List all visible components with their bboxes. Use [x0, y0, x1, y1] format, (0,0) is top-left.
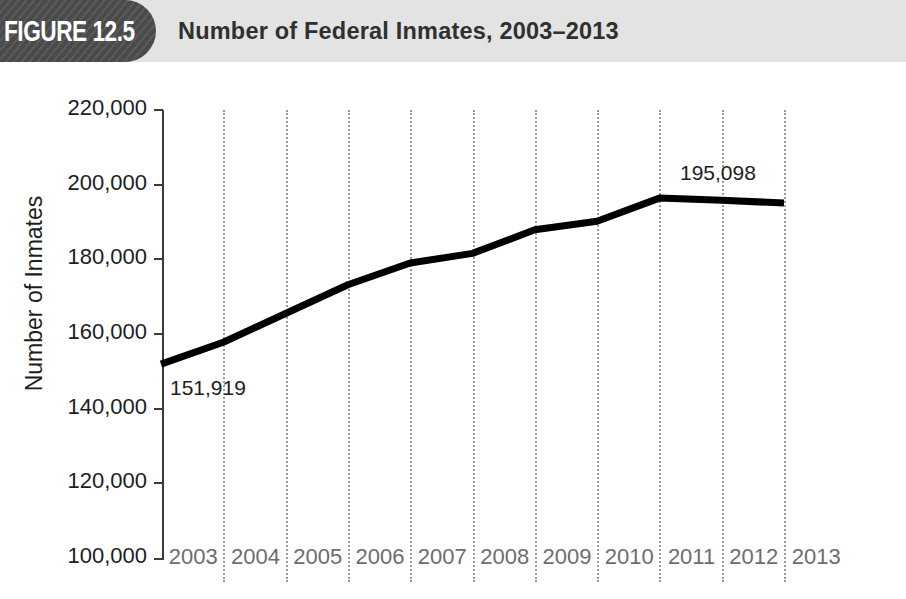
- figure-number-label: FIGURE 12.5: [4, 15, 135, 48]
- figure-header: FIGURE 12.5 Number of Federal Inmates, 2…: [0, 0, 906, 62]
- line-series: [0, 62, 906, 599]
- data-value-label: 151,919: [170, 376, 246, 400]
- data-value-label: 195,098: [680, 161, 756, 185]
- figure-title: Number of Federal Inmates, 2003–2013: [178, 0, 619, 62]
- chart-area: Number of Inmates 100,000120,000140,0001…: [0, 62, 906, 599]
- figure-number-tab: FIGURE 12.5: [0, 0, 156, 62]
- inmates-line: [161, 198, 784, 364]
